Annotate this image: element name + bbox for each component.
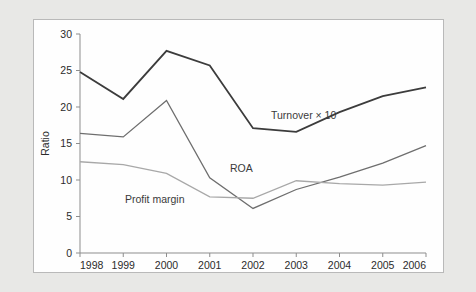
x-tick-label-2006: 2006	[403, 259, 427, 271]
series-annotations: Turnover × 10ROAProfit margin	[125, 109, 336, 205]
series-label-profit-margin: Profit margin	[125, 193, 185, 205]
x-tick-label-2002: 2002	[241, 259, 265, 271]
chart-panel: 051015202530 199819992000200120022003200…	[33, 19, 444, 273]
x-tick-label-1999: 1999	[112, 259, 136, 271]
y-tick-label-25: 25	[60, 64, 72, 76]
y-tick-label-5: 5	[66, 210, 72, 222]
y-axis-title: Ratio	[39, 131, 51, 156]
y-tick-label-20: 20	[60, 101, 72, 113]
series-lines	[80, 51, 426, 209]
figure-page: 051015202530 199819992000200120022003200…	[0, 0, 476, 292]
y-tick-label-30: 30	[60, 28, 72, 40]
y-tick-label-0: 0	[66, 247, 72, 259]
y-axis: 051015202530	[60, 28, 80, 259]
x-tick-label-2004: 2004	[328, 259, 352, 271]
series-label-roa: ROA	[230, 162, 253, 174]
line-chart: 051015202530 199819992000200120022003200…	[34, 20, 443, 272]
x-tick-label-2003: 2003	[285, 259, 309, 271]
y-tick-label-10: 10	[60, 174, 72, 186]
x-tick-label-2005: 2005	[371, 259, 395, 271]
x-axis: 199819992000200120022003200420052006	[80, 253, 426, 271]
y-tick-label-15: 15	[60, 137, 72, 149]
x-tick-label-2000: 2000	[155, 259, 179, 271]
x-tick-label-2001: 2001	[198, 259, 222, 271]
series-line-turnover-10	[80, 51, 426, 132]
series-label-turnover-10: Turnover × 10	[271, 109, 336, 121]
x-tick-label-1998: 1998	[80, 259, 104, 271]
